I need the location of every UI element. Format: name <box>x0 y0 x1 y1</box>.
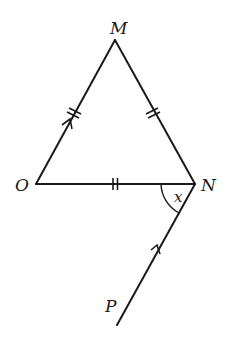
segment-np <box>117 184 195 325</box>
geometry-diagram: M O N P x <box>0 0 240 346</box>
label-o: O <box>15 175 29 195</box>
label-m: M <box>109 18 128 38</box>
label-n: N <box>200 175 217 195</box>
label-angle-x: x <box>174 188 183 206</box>
parallel-arrow-np <box>151 245 160 254</box>
segment-mn <box>115 40 195 184</box>
label-p: P <box>104 296 117 316</box>
